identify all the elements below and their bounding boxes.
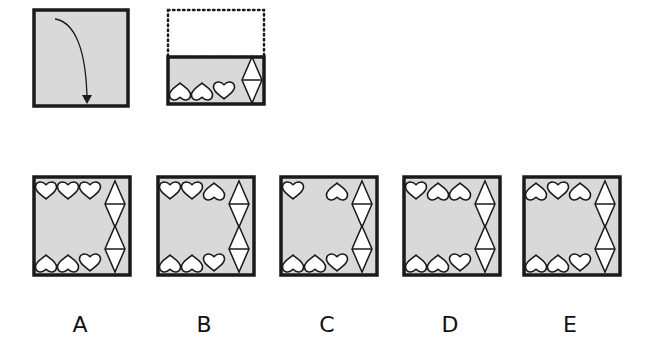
option-label-b: B (184, 312, 224, 338)
option-a[interactable] (34, 177, 130, 275)
option-label-e: E (550, 312, 590, 338)
option-e[interactable] (524, 177, 620, 275)
folded-result-panel (168, 10, 264, 104)
folded-away-outline (168, 10, 264, 57)
answer-options (34, 177, 620, 275)
option-label-d: D (430, 312, 470, 338)
puzzle-canvas (0, 0, 656, 363)
option-c[interactable] (281, 177, 377, 275)
option-label-c: C (307, 312, 347, 338)
option-label-a: A (60, 312, 100, 338)
fold-square (34, 10, 128, 106)
fold-instruction-panel (34, 10, 128, 106)
option-b[interactable] (158, 177, 254, 275)
option-d[interactable] (404, 177, 500, 275)
